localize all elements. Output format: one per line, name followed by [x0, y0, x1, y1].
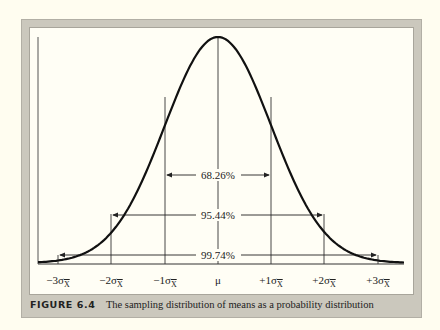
interval-68-label: 68.26%: [199, 169, 237, 181]
bell-curve: [38, 37, 404, 263]
tick-minus-1-sigma: −1σX: [153, 274, 176, 286]
interval-99-label: 99.74%: [199, 249, 237, 261]
tick-minus-3-sigma: −3σX: [46, 274, 69, 286]
tick-plus-2-sigma: +2σX: [312, 274, 335, 286]
interval-95-label: 95.44%: [199, 209, 237, 221]
tick-plus-1-sigma: +1σX: [259, 274, 282, 286]
tick-minus-2-sigma: −2σX: [99, 274, 122, 286]
tick-mean: μ: [215, 274, 221, 286]
tick-plus-3-sigma: +3σX: [366, 274, 389, 286]
caption-text: The sampling distribution of means as a …: [106, 299, 374, 310]
figure-caption: FIGURE 6.4 The sampling distribution of …: [30, 299, 374, 310]
figure-label: FIGURE 6.4: [30, 299, 95, 310]
